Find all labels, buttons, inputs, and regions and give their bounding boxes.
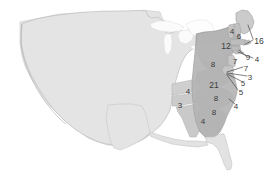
map-label-new-jersey: 7 [233, 58, 237, 66]
map-label-delaware: 7 [244, 65, 248, 73]
map-label-virginia: 21 [209, 81, 218, 89]
map-label-maine: 4 [230, 28, 234, 36]
map-label-new-hampshire: 6 [237, 33, 241, 41]
texas-shape [106, 104, 150, 150]
map-label-west-virginia: 5 [239, 89, 243, 97]
map-label-pennsylvania: 8 [211, 61, 215, 69]
map-label-rhode-island: 9 [246, 54, 250, 62]
gulf-region [106, 104, 150, 150]
map-label-new-york: 12 [221, 42, 230, 50]
map-label-north-carolina-coast: 4 [234, 103, 238, 111]
map-label-dc: 5 [241, 80, 245, 88]
map-figure: 4616129478735215438484 [0, 0, 267, 179]
us-map-svg [0, 0, 267, 179]
map-label-georgia: 4 [201, 118, 205, 126]
florida-shape [206, 134, 232, 170]
map-label-tennessee: 3 [178, 102, 182, 110]
florida-region [150, 132, 232, 170]
gulf-coast-shape [150, 132, 208, 147]
map-label-maryland: 3 [248, 74, 252, 82]
map-label-connecticut: 4 [255, 56, 259, 64]
map-label-north-carolina: 8 [214, 95, 218, 103]
map-label-kentucky: 4 [186, 88, 190, 96]
map-label-south-carolina: 8 [212, 109, 216, 117]
map-label-vermont-massachusetts: 16 [254, 37, 263, 45]
